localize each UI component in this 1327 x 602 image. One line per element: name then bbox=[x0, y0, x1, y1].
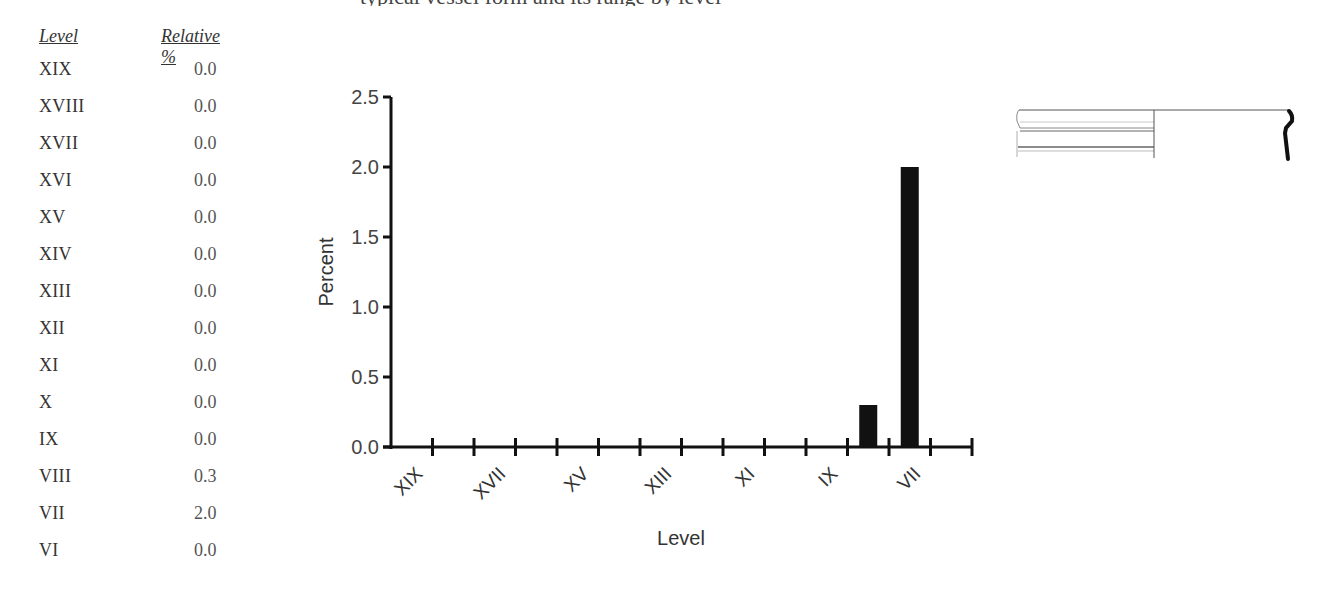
y-tick-label: 1.0 bbox=[351, 296, 379, 318]
bars bbox=[859, 167, 919, 447]
bar-vii bbox=[901, 167, 919, 447]
x-axis: XIXXVIIXVXIIIXIIXVII bbox=[383, 438, 972, 503]
x-tick-label: VII bbox=[893, 463, 924, 494]
y-tick-label: 0.5 bbox=[351, 366, 379, 388]
x-axis-label: Level bbox=[657, 527, 705, 549]
x-tick-label: XIX bbox=[390, 463, 427, 500]
y-tick-label: 2.5 bbox=[351, 86, 379, 108]
x-tick-label: XI bbox=[731, 463, 759, 491]
y-tick-label: 2.0 bbox=[351, 156, 379, 178]
x-tick-label: XIII bbox=[641, 463, 676, 498]
vessel-rim-profile-drawing bbox=[1000, 95, 1327, 195]
x-tick-label: IX bbox=[814, 463, 842, 491]
bar-chart: 0.00.51.01.52.02.5 XIXXVIIXVXIIIXIIXVII … bbox=[0, 0, 1000, 602]
y-axis: 0.00.51.01.52.02.5 bbox=[351, 86, 391, 458]
y-tick-label: 1.5 bbox=[351, 226, 379, 248]
bar-viii bbox=[859, 405, 877, 447]
x-tick-label: XV bbox=[560, 463, 593, 496]
y-axis-label: Percent bbox=[315, 237, 337, 306]
x-tick-label: XVII bbox=[469, 463, 509, 503]
y-tick-label: 0.0 bbox=[351, 436, 379, 458]
